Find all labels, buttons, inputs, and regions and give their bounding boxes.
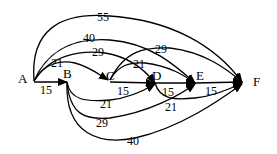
weight-a-f: 55 (97, 10, 109, 24)
weight-a-d: 29 (92, 45, 104, 59)
node-e: E (196, 68, 204, 83)
node-f: F (253, 74, 260, 89)
node-d: D (152, 68, 161, 83)
weight-c-e: 21 (133, 57, 145, 71)
weight-d-f: 21 (165, 100, 177, 114)
weight-a-b: 15 (40, 83, 52, 97)
weight-c-d: 15 (117, 84, 129, 98)
weight-e-f: 15 (205, 84, 217, 98)
weight-c-f: 29 (155, 42, 167, 56)
node-b: B (63, 66, 72, 81)
weight-a-c: 21 (51, 56, 63, 70)
weight-b-d: 21 (100, 97, 112, 111)
weight-b-f: 40 (127, 134, 139, 148)
weight-b-e: 29 (96, 116, 108, 130)
edge-c-f (110, 48, 242, 82)
weight-a-e: 40 (83, 31, 95, 45)
weight-d-e: 15 (162, 85, 174, 99)
node-c: C (106, 68, 115, 83)
edge-c-d (110, 82, 155, 83)
graph-canvas: 55 40 29 21 15 21 29 40 15 21 29 15 21 1… (0, 0, 277, 154)
node-a: A (18, 71, 28, 86)
